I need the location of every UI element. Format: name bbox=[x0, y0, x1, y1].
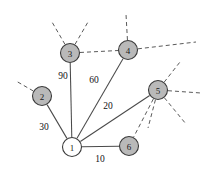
external-stub-edge-node-4 bbox=[138, 42, 196, 49]
external-stub-edge-node-4 bbox=[126, 14, 127, 40]
edge-1-5 bbox=[80, 96, 149, 142]
node-label-6: 6 bbox=[127, 142, 132, 152]
edge-weight-label-1-4: 60 bbox=[89, 75, 99, 85]
graph-node-4[interactable]: 4 bbox=[119, 41, 138, 60]
edge-weight-label-1-5: 20 bbox=[103, 101, 113, 111]
external-stub-edge-node-5 bbox=[148, 100, 155, 128]
edge-weight-label-1-3: 90 bbox=[58, 71, 68, 81]
external-stub-edge-node-5 bbox=[164, 98, 186, 124]
external-stub-edge-node-5 bbox=[164, 62, 180, 82]
node-label-5: 5 bbox=[156, 86, 161, 96]
graph-node-3[interactable]: 3 bbox=[61, 44, 80, 63]
edge-1-4 bbox=[77, 59, 123, 139]
node-label-4: 4 bbox=[126, 46, 131, 56]
external-stub-edge-node-2 bbox=[16, 81, 33, 91]
graph-edges-layer bbox=[47, 51, 153, 147]
node-label-3: 3 bbox=[68, 49, 73, 59]
edge-1-2 bbox=[47, 105, 67, 139]
edge-weight-label-1-2: 30 bbox=[39, 122, 49, 132]
external-stub-edge-node-5 bbox=[168, 91, 201, 93]
external-stub-edge-node-3 bbox=[52, 22, 65, 44]
graph-node-5[interactable]: 5 bbox=[149, 81, 168, 100]
edge-weight-label-1-6: 10 bbox=[95, 154, 105, 164]
network-graph-canvas: 3090602010 123456 bbox=[0, 0, 204, 174]
graph-node-6[interactable]: 6 bbox=[120, 137, 139, 156]
node-label-2: 2 bbox=[40, 92, 45, 102]
edge-1-3 bbox=[70, 63, 72, 137]
external-stub-edge-node-3 bbox=[75, 22, 88, 44]
network-graph-figure: 3090602010 123456 bbox=[0, 0, 204, 174]
node-label-1: 1 bbox=[70, 143, 75, 153]
graph-node-2[interactable]: 2 bbox=[33, 87, 52, 106]
edge-3-4 bbox=[80, 51, 118, 53]
graph-node-1[interactable]: 1 bbox=[63, 138, 82, 157]
edge-1-6 bbox=[82, 146, 119, 147]
